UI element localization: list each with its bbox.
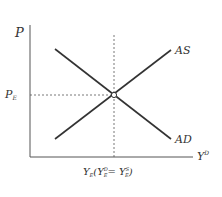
output-equilibrium-label: YE(YDE= YSE) xyxy=(83,166,133,178)
price-equilibrium-label: PE xyxy=(4,88,17,101)
as-label: AS xyxy=(174,44,191,57)
ad-label: AD xyxy=(174,133,192,146)
y-axis-label: P xyxy=(14,25,24,40)
ad-as-diagram: P YD AS AD PE YE(YDE= YSE) xyxy=(0,0,222,197)
equilibrium-point xyxy=(111,92,116,97)
x-axis-label: YD xyxy=(197,149,209,163)
